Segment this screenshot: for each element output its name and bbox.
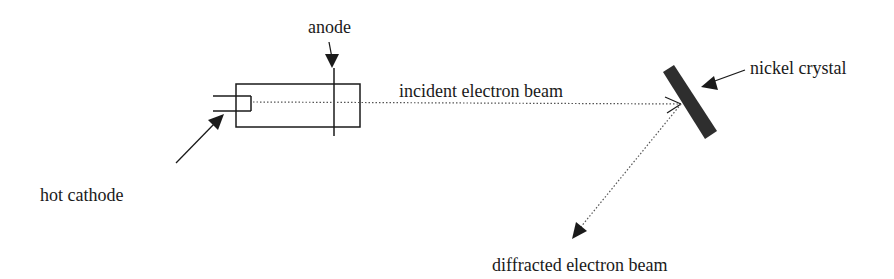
nickel-arrowhead <box>701 76 718 90</box>
diffracted-beam-arrowhead <box>572 222 587 239</box>
nickel-pointer-arrow <box>712 70 745 82</box>
electron-diffraction-diagram <box>0 0 894 279</box>
nickel-crystal <box>663 65 717 139</box>
anode-arrowhead <box>325 54 339 68</box>
diffracted-beam-label: diffracted electron beam <box>492 256 668 274</box>
cathode-pointer-arrow <box>176 123 215 163</box>
diffracted-beam-line <box>580 104 681 228</box>
nickel-crystal-label: nickel crystal <box>750 59 846 77</box>
electron-gun-tube <box>236 84 360 127</box>
anode-label: anode <box>308 18 351 36</box>
hot-cathode-filament <box>213 96 251 111</box>
incident-beam-line <box>253 102 681 104</box>
incident-beam-arrowhead <box>665 97 681 113</box>
incident-beam-label: incident electron beam <box>399 82 563 100</box>
hot-cathode-label: hot cathode <box>40 186 123 204</box>
